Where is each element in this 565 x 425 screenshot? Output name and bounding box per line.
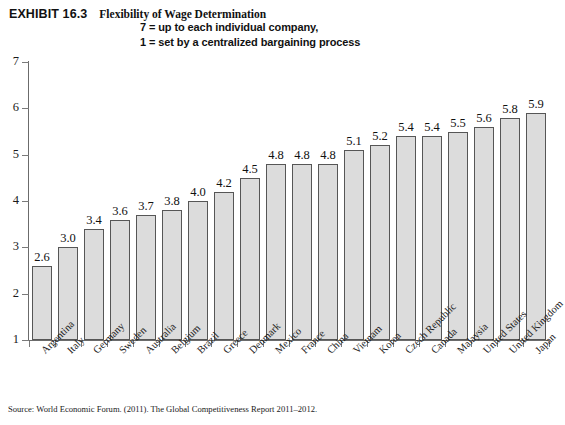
- y-tick-label: 6: [0, 100, 19, 115]
- bar: [162, 210, 183, 340]
- bar: [32, 266, 53, 340]
- y-tick-7: [22, 62, 29, 63]
- bar: [136, 215, 157, 340]
- bar: [266, 164, 287, 340]
- y-tick-2: [22, 294, 29, 295]
- source-note: Source: World Economic Forum. (2011). Th…: [8, 404, 317, 414]
- scale-legend-line-1: 1 = set by a centralized bargaining proc…: [140, 36, 360, 48]
- page-title: Flexibility of Wage Determination: [99, 8, 266, 20]
- scale-legend-line-7: 7 = up to each individual company,: [140, 21, 318, 33]
- y-tick-6: [22, 108, 29, 109]
- y-tick-label: 3: [0, 239, 19, 254]
- bar: [474, 127, 495, 340]
- bar-chart: 1234567 2.63.03.43.63.73.84.04.24.54.84.…: [0, 52, 557, 400]
- bar: [396, 136, 417, 340]
- bar: [240, 178, 261, 340]
- y-tick-label: 1: [0, 332, 19, 347]
- y-tick-label: 5: [0, 147, 19, 162]
- bar: [526, 113, 547, 340]
- y-tick-3: [22, 247, 29, 248]
- bar-value-label: 4.8: [312, 148, 344, 163]
- exhibit-number-label: EXHIBIT 16.3: [9, 7, 87, 21]
- y-tick-label: 2: [0, 286, 19, 301]
- bar-value-label: 2.6: [26, 250, 58, 265]
- bar: [422, 136, 443, 340]
- bar-value-label: 5.9: [520, 97, 552, 112]
- y-tick-5: [22, 155, 29, 156]
- y-tick-1: [22, 340, 29, 341]
- bar-value-label: 3.0: [52, 231, 84, 246]
- bar: [318, 164, 339, 340]
- y-tick-label: 4: [0, 193, 19, 208]
- bar: [188, 201, 209, 340]
- bar: [292, 164, 313, 340]
- bar: [344, 150, 365, 340]
- x-tick-origin: [29, 341, 30, 347]
- bar-value-label: 4.2: [208, 176, 240, 191]
- bar: [370, 145, 391, 340]
- bar: [214, 192, 235, 340]
- bar-value-label: 4.5: [234, 162, 266, 177]
- bar: [84, 229, 105, 340]
- bar: [500, 118, 521, 340]
- y-tick-4: [22, 201, 29, 202]
- exhibit-title-line: EXHIBIT 16.3Flexibility of Wage Determin…: [9, 4, 266, 22]
- y-tick-label: 7: [0, 54, 19, 69]
- exhibit-header: EXHIBIT 16.3Flexibility of Wage Determin…: [0, 0, 557, 52]
